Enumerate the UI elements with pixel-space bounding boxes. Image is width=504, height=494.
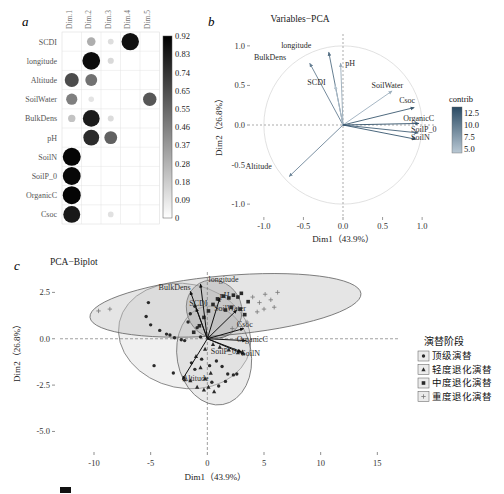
colorbar-tick-label: 0.28 — [175, 159, 190, 169]
c-ytick-label: -5.0 — [37, 426, 50, 436]
biplot-point — [215, 359, 218, 362]
colorbar-tick-label: 0.74 — [175, 68, 191, 78]
panel-c-legend-title: 演替阶段 — [424, 335, 464, 347]
pca-vector-label-Csoc: Csoc — [399, 96, 415, 105]
panel-c-xlabel: Dim1（43.9%） — [184, 472, 246, 482]
panel-c-ylabel: Dim2（26.8%） — [12, 320, 22, 382]
matrix-row-label: SoilN — [38, 153, 57, 162]
matrix-dot — [63, 148, 81, 166]
biplot-point — [172, 371, 175, 374]
biplot-vector-label-pH: pH — [220, 291, 230, 300]
b-ytick-label: -1.0 — [232, 199, 245, 209]
matrix-col-label: Dim.1 — [65, 10, 74, 29]
pca-vector-label-SoilN: SoilN — [411, 133, 430, 142]
biplot-point — [149, 323, 152, 326]
matrix-dot — [82, 52, 100, 70]
biplot-point — [220, 365, 223, 368]
matrix-col-label: Dim.4 — [123, 10, 132, 29]
pca-vector-label-Altitude: Altitude — [246, 162, 273, 171]
matrix-dot — [63, 206, 80, 223]
biplot-vector-label-SCDI: SCDI — [189, 299, 208, 308]
colorbar-tick-label: 0.46 — [175, 122, 190, 132]
b-xtick-label: 0.0 — [338, 221, 349, 231]
matrix-dot — [83, 110, 100, 127]
contrib-legend-title: contrib — [449, 94, 473, 104]
biplot-point — [168, 333, 171, 336]
matrix-row-label: Csoc — [41, 210, 57, 219]
matrix-dot — [88, 96, 94, 102]
panel-c: cPCA−BiplotlongitudeBulkDensSCDIpHSoilWa… — [12, 257, 492, 482]
matrix-dot — [65, 73, 79, 87]
matrix-col-label: Dim.3 — [104, 10, 113, 29]
matrix-dot — [63, 186, 81, 204]
b-ytick-label: 0.5 — [234, 80, 245, 90]
colorbar-tick-label: 0.55 — [175, 104, 190, 114]
panel-b: bVariables−PCA-1.0-0.50.00.51.0-1.0-0.50… — [208, 14, 479, 244]
b-ytick-label: -0.5 — [232, 160, 245, 170]
panel-a-colorbar — [163, 36, 172, 218]
panel-b-letter: b — [208, 14, 215, 29]
c-ytick-label: 2.5 — [39, 287, 50, 297]
biplot-point — [152, 364, 155, 367]
panel-b-title: Variables−PCA — [270, 14, 329, 24]
biplot-point — [165, 332, 168, 335]
biplot-vector-label-Csoc: Csoc — [237, 320, 253, 329]
biplot-point — [224, 380, 227, 383]
biplot-point — [189, 312, 192, 315]
contrib-tick-label: 10.0 — [464, 120, 479, 130]
colorbar-tick-label: 0.09 — [175, 195, 190, 205]
biplot-vector-label-SoilN: SoilN — [241, 349, 260, 358]
biplot-point — [232, 293, 236, 297]
biplot-point — [232, 373, 235, 376]
pca-vector-BulkDens — [310, 63, 343, 125]
pca-vector-label-longitude: longitude — [281, 41, 312, 50]
biplot-vector-label-SoilP_0: SoilP_0 — [211, 347, 236, 356]
b-xtick-label: 1.0 — [417, 221, 428, 231]
biplot-point — [236, 295, 240, 299]
matrix-dot — [87, 37, 96, 46]
biplot-point — [180, 338, 183, 341]
biplot-point — [199, 335, 202, 338]
biplot-vector-label-OrganicC: OrganicC — [237, 335, 268, 344]
pca-vector-label-pH: pH — [345, 59, 355, 68]
matrix-row-label: BulkDens — [25, 114, 57, 123]
biplot-point — [198, 324, 202, 328]
matrix-dot — [108, 115, 114, 121]
c-xtick-label: -5 — [147, 458, 154, 468]
b-xtick-label: -0.5 — [297, 221, 310, 231]
contrib-tick-label: 7.5 — [464, 132, 475, 142]
pca-vector-SoilN — [343, 125, 416, 139]
panel-c-legend-item-2: 中度退化演替 — [432, 377, 492, 388]
figure-caption — [60, 487, 71, 493]
biplot-point — [186, 320, 189, 323]
biplot-point — [240, 292, 244, 296]
pca-vector-label-BulkDens: BulkDens — [254, 53, 286, 62]
panel-b-xlabel: Dim1（43.9%） — [312, 234, 374, 244]
biplot-vector-label-longitude: longitude — [208, 275, 239, 284]
figure-root: aDim.1Dim.2Dim.3Dim.4Dim.5SCDIlongitudeA… — [0, 0, 504, 494]
matrix-dot — [108, 39, 114, 45]
c-xtick-label: 5 — [262, 458, 266, 468]
b-ytick-label: 0.0 — [234, 120, 245, 130]
contrib-tick-label: 12.5 — [464, 108, 479, 118]
legend-key-marker-square — [422, 381, 426, 385]
legend-key-marker-circle — [422, 354, 425, 357]
colorbar-tick-label: 0.37 — [175, 140, 190, 150]
b-xtick-label: -1.0 — [257, 221, 270, 231]
pca-vector-label-OrganicC: OrganicC — [403, 114, 434, 123]
c-xtick-label: 0 — [205, 458, 209, 468]
c-xtick-label: 15 — [373, 458, 382, 468]
panel-c-legend-item-1: 轻度退化演替 — [432, 364, 492, 375]
matrix-dot — [63, 167, 81, 185]
matrix-row-label: SoilP_0 — [32, 172, 57, 181]
contrib-colorbar — [452, 107, 462, 153]
matrix-row-label: OrganicC — [26, 191, 57, 200]
biplot-point — [158, 329, 161, 332]
biplot-point — [144, 315, 147, 318]
pca-vector-Altitude — [289, 125, 343, 176]
colorbar-tick-label: 0.92 — [175, 31, 190, 41]
matrix-row-label: pH — [47, 134, 57, 143]
biplot-point — [147, 301, 150, 304]
contrib-tick-label: 5.0 — [464, 144, 475, 154]
c-xtick-label: 10 — [316, 458, 325, 468]
